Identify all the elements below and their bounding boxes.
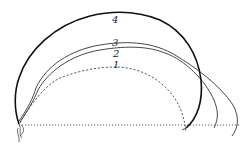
curve-label-1: 1 <box>113 60 119 70</box>
curve-3 <box>19 43 237 136</box>
root-tangle <box>17 124 23 142</box>
curve-label-2: 2 <box>113 49 119 59</box>
curve-1 <box>20 67 186 132</box>
curve-label-4: 4 <box>112 15 118 25</box>
curve-4 <box>15 13 201 128</box>
diagram-canvas <box>0 0 248 150</box>
end-mark <box>182 127 188 130</box>
curve-label-3: 3 <box>112 38 118 48</box>
